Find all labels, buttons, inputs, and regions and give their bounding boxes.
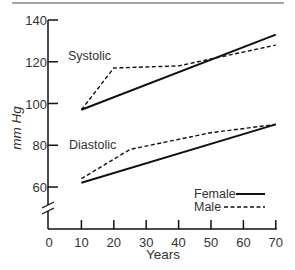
y-tick-label: 120: [25, 55, 47, 70]
y-axis: 6080100120140: [25, 13, 58, 229]
legend-male-label: Male: [194, 200, 221, 214]
x-axis-title: Years: [146, 247, 180, 262]
y-tick-label: 100: [25, 97, 47, 112]
blood-pressure-chart: 6080100120140 010203040506070 Systolic D…: [0, 0, 295, 270]
diastolic-female-line: [81, 124, 275, 182]
x-tick-label: 0: [45, 235, 52, 250]
legend-female-label: Female: [194, 187, 236, 201]
y-axis-title: mm Hg: [9, 106, 24, 150]
x-axis: 010203040506070: [45, 220, 283, 250]
y-tick-label: 140: [25, 13, 47, 28]
legend: Female Male: [194, 187, 265, 214]
x-tick-label: 70: [269, 235, 283, 250]
x-tick-label: 10: [74, 235, 88, 250]
y-tick-label: 60: [33, 180, 47, 195]
diastolic-label: Diastolic: [69, 138, 116, 152]
systolic-label: Systolic: [68, 49, 111, 63]
x-tick-label: 20: [107, 235, 121, 250]
y-tick-label: 80: [33, 138, 47, 153]
x-tick-label: 50: [204, 235, 218, 250]
x-tick-label: 60: [236, 235, 250, 250]
